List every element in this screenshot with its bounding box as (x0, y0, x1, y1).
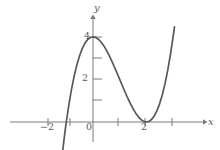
cubic-curve (57, 27, 174, 150)
graph-figure: −2 0 2 2 4 x y (0, 0, 220, 150)
x-axis-arrowhead (203, 119, 208, 125)
y-axis-ticks (93, 37, 102, 100)
x-tick-label-2: 2 (141, 122, 147, 132)
cubic-graph-plot (0, 0, 220, 150)
y-axis-arrowhead (90, 15, 96, 20)
x-tick-label-0: 0 (86, 122, 92, 132)
y-axis-label: y (94, 3, 100, 13)
x-tick-label-minus2: −2 (40, 122, 54, 132)
y-tick-label-2: 2 (82, 73, 88, 83)
x-axis-label: x (208, 117, 214, 127)
y-tick-label-4: 4 (84, 31, 90, 41)
